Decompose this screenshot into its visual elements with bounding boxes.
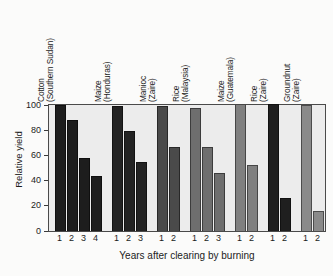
x-axis-tick-label: 2 (246, 233, 257, 244)
bar-group (268, 105, 292, 231)
bar (190, 108, 201, 231)
bar-group (55, 105, 103, 231)
bar (169, 147, 180, 231)
bar (280, 198, 291, 231)
bar (268, 104, 279, 231)
y-axis-tick-label: 40 (31, 176, 44, 185)
x-tick-group: 12 (156, 233, 180, 247)
y-axis-tick-label: 100 (26, 101, 44, 110)
bar (235, 104, 246, 231)
bar-group (112, 105, 148, 231)
crop-header: Groundnut(Zaire) (201, 2, 301, 102)
bar (313, 211, 324, 231)
x-axis-tick-label: 1 (267, 233, 278, 244)
x-tick-group: 12 (234, 233, 258, 247)
x-axis-tick-label: 1 (54, 233, 65, 244)
bar (55, 105, 66, 231)
bar (79, 158, 90, 231)
y-axis-tick-label: 60 (31, 151, 44, 160)
x-axis-tick-label: 2 (279, 233, 290, 244)
x-tick-group: 123 (189, 233, 225, 247)
y-axis-tick-label: 0 (36, 227, 44, 236)
bar-group (301, 105, 325, 231)
x-axis-tick-label: 1 (111, 233, 122, 244)
bar (157, 106, 168, 231)
bar-group (157, 105, 181, 231)
x-axis-tick-label: 3 (78, 233, 89, 244)
x-axis-tick-label: 2 (201, 233, 212, 244)
x-axis-tick-label: 2 (123, 233, 134, 244)
bar-group (235, 105, 259, 231)
x-axis-tick-label: 1 (189, 233, 200, 244)
crop-header-labels: Cotton(Southern Sudan)Maize(Honduras)Man… (0, 0, 333, 104)
bar (301, 105, 312, 231)
y-axis-label: Relative yield (13, 110, 24, 210)
bar (136, 162, 147, 231)
x-axis-tick-label: 1 (156, 233, 167, 244)
x-axis-tick-label: 2 (66, 233, 77, 244)
bar (67, 120, 78, 231)
x-axis-tick-label: 2 (168, 233, 179, 244)
x-axis-tick-labels: 123412312123121212 (48, 233, 326, 247)
bar-group (190, 105, 226, 231)
x-axis-tick-label: 1 (300, 233, 311, 244)
y-axis-tick-label: 20 (31, 201, 44, 210)
crop-location: (Zaire) (292, 78, 301, 102)
chart-figure: Cotton(Southern Sudan)Maize(Honduras)Man… (0, 0, 333, 276)
bar (247, 165, 258, 231)
plot-area (48, 104, 326, 232)
bar (112, 106, 123, 231)
x-axis-tick-label: 3 (213, 233, 224, 244)
x-tick-group: 1234 (54, 233, 102, 247)
x-axis-tick-label: 2 (312, 233, 323, 244)
x-tick-group: 12 (300, 233, 324, 247)
x-axis-tick-label: 3 (135, 233, 146, 244)
bar (202, 147, 213, 231)
x-tick-group: 12 (267, 233, 291, 247)
bars-layer (49, 105, 325, 231)
x-tick-group: 123 (111, 233, 147, 247)
bar (214, 173, 225, 231)
y-axis: Relative yield 020406080100 (0, 104, 48, 232)
y-axis-tick-label: 80 (31, 126, 44, 135)
bar (124, 131, 135, 231)
x-axis-tick-label: 1 (234, 233, 245, 244)
x-axis-label: Years after clearing by burning (48, 250, 326, 261)
bar (91, 176, 102, 231)
x-axis-tick-label: 4 (90, 233, 101, 244)
